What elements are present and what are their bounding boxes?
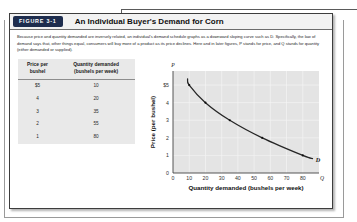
y-tick-label: 3 (166, 117, 169, 123)
table-header-row: Price per bushel Quantity demanded (bush… (18, 59, 135, 79)
x-tick-label: 30 (219, 175, 225, 181)
data-point-marker (261, 137, 263, 139)
page-border-right (343, 20, 344, 218)
page-canvas: FIGURE 3-1 An Individual Buyer's Demand … (0, 0, 357, 222)
cell-price: 4 (18, 93, 57, 106)
figure-box: FIGURE 3-1 An Individual Buyer's Demand … (9, 13, 333, 209)
demand-curve-chart: 01020304050607080Q 01234$5P DQuantity de… (143, 57, 331, 202)
x-tick-label: 60 (267, 175, 273, 181)
table-row: 180 (18, 131, 135, 144)
cell-quantity: 10 (57, 79, 135, 92)
y-axis-symbol: P (170, 62, 175, 68)
cell-quantity: 20 (57, 93, 135, 106)
demand-curve-label: D (315, 156, 321, 163)
x-axis-title: Quantity demanded (bushels per week) (188, 184, 303, 191)
y-tick-label: 2 (166, 135, 169, 141)
column-header-quantity-line2: (bushels per week) (59, 69, 133, 75)
x-tick-label: 0 (172, 175, 175, 181)
cell-price: $5 (18, 79, 57, 92)
figure-body: Price per bushel Quantity demanded (bush… (10, 57, 332, 202)
y-tick-label: 1 (166, 152, 169, 158)
x-tick-label: 40 (235, 175, 241, 181)
cell-quantity: 35 (57, 105, 135, 118)
data-point-marker (188, 84, 190, 86)
data-point-marker (229, 119, 231, 121)
data-point-marker (302, 154, 304, 156)
figure-header: FIGURE 3-1 An Individual Buyer's Demand … (10, 14, 332, 30)
chart-svg: 01020304050607080Q 01234$5P DQuantity de… (143, 57, 331, 202)
plot-area-rect (173, 71, 319, 173)
x-axis-symbol: Q (320, 175, 324, 181)
x-axis-tick-labels: 01020304050607080Q (172, 175, 324, 181)
y-tick-label: $5 (163, 82, 169, 88)
figure-title: An Individual Buyer's Demand for Corn (75, 17, 224, 26)
page-rule-top (121, 9, 357, 10)
column-header-price-line2: bushel (20, 69, 55, 75)
y-tick-label: 0 (166, 170, 169, 176)
column-header-price: Price per bushel (18, 59, 57, 79)
x-tick-label: 80 (300, 175, 306, 181)
cell-price: 2 (18, 118, 57, 131)
x-tick-label: 20 (203, 175, 209, 181)
table-row: 255 (18, 118, 135, 131)
plot-background (173, 71, 319, 173)
data-point-marker (204, 101, 206, 103)
cell-price: 3 (18, 105, 57, 118)
table-body: $510420335255180 (18, 79, 135, 144)
y-tick-label: 4 (166, 100, 169, 106)
cell-quantity: 80 (57, 131, 135, 144)
x-tick-label: 50 (251, 175, 257, 181)
figure-number-tag: FIGURE 3-1 (13, 16, 63, 26)
figure-caption: Because price and quantity demanded are … (10, 30, 332, 57)
table-row: 335 (18, 105, 135, 118)
table-header: Price per bushel Quantity demanded (bush… (18, 59, 135, 79)
table-row: 420 (18, 93, 135, 106)
demand-schedule-table: Price per bushel Quantity demanded (bush… (18, 59, 135, 144)
column-header-quantity: Quantity demanded (bushels per week) (57, 59, 135, 79)
caption-line-1: Because price and quantity demanded are … (17, 34, 274, 39)
cell-quantity: 55 (57, 118, 135, 131)
cell-price: 1 (18, 131, 57, 144)
x-tick-label: 10 (186, 175, 192, 181)
page-border-left (4, 20, 5, 218)
x-tick-label: 70 (284, 175, 290, 181)
table-row: $510 (18, 79, 135, 92)
page-border-bottom (4, 217, 344, 218)
y-axis-title: Price (per bushel) (149, 96, 156, 148)
